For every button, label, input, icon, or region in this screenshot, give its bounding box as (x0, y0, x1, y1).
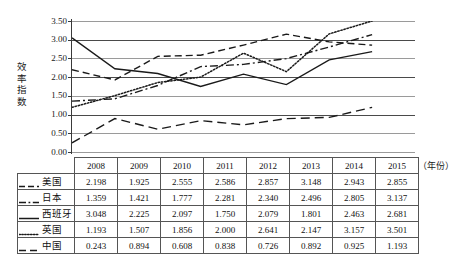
table-value-cell: 1.193 (75, 222, 118, 238)
y-axis-tick-label: 2.00 (34, 73, 67, 82)
table-value-cell: 2.281 (204, 190, 247, 206)
y-axis-title-char: 指 (14, 85, 30, 97)
table-value-cell: 3.157 (333, 222, 376, 238)
table-year-header: 2012 (247, 158, 290, 174)
table-value-cell: 2.000 (204, 222, 247, 238)
y-axis-title-char: 数 (14, 97, 30, 109)
table-value-cell: 1.801 (290, 206, 333, 222)
y-axis-tick-label: 0.00 (34, 148, 67, 157)
table-value-cell: 0.838 (204, 238, 247, 254)
table-row-legend-美国: 美国 (18, 174, 75, 190)
legend-line-swatch (19, 229, 39, 230)
table-value-cell: 2.641 (247, 222, 290, 238)
table-value-cell: 2.805 (333, 190, 376, 206)
table-value-cell: 1.925 (118, 174, 161, 190)
legend-series-name: 英国 (42, 225, 62, 235)
y-axis-title-char: 率 (14, 74, 30, 86)
legend-series-name: 日本 (42, 193, 62, 203)
legend-line-swatch (19, 245, 39, 246)
table-row: 英国1.1931.5071.8562.0002.6412.1473.1573.5… (18, 222, 419, 238)
table-year-header: 2008 (75, 158, 118, 174)
series-line-美国 (72, 34, 372, 80)
table-value-cell: 1.193 (376, 238, 419, 254)
y-axis-tick-label: 3.50 (34, 17, 67, 26)
table-value-cell: 0.243 (75, 238, 118, 254)
legend-line-swatch (19, 181, 39, 182)
table-value-cell: 3.137 (376, 190, 419, 206)
table-value-cell: 2.079 (247, 206, 290, 222)
series-line-英国 (72, 21, 372, 107)
table-body: 美国2.1981.9252.5552.5862.8573.1482.9432.8… (18, 174, 419, 254)
series-line-中国 (72, 107, 372, 143)
y-axis-tick-labels: 3.503.002.502.001.501.000.500.00 (34, 0, 67, 160)
series-line-日本 (72, 35, 372, 102)
legend-line-swatch (19, 197, 39, 198)
table-value-cell: 2.496 (290, 190, 333, 206)
table-corner-cell (18, 158, 75, 174)
efficiency-index-figure: 效率指数 3.503.002.502.001.501.000.500.00 （年… (0, 0, 458, 257)
table-row: 美国2.1981.9252.5552.5862.8573.1482.9432.8… (18, 174, 419, 190)
table-value-cell: 3.048 (75, 206, 118, 222)
table-value-cell: 2.855 (376, 174, 419, 190)
table-row-legend-中国: 中国 (18, 238, 75, 254)
table-value-cell: 1.856 (161, 222, 204, 238)
table-value-cell: 1.777 (161, 190, 204, 206)
gridline (72, 152, 415, 153)
table-value-cell: 1.750 (204, 206, 247, 222)
table-year-header: 2010 (161, 158, 204, 174)
y-axis-title-char: 效 (14, 62, 30, 74)
legend-series-name: 西班牙 (42, 209, 72, 219)
table-value-cell: 3.501 (376, 222, 419, 238)
legend-series-name: 中国 (42, 241, 62, 251)
table-value-cell: 2.586 (204, 174, 247, 190)
y-axis-tick-label: 3.00 (34, 35, 67, 44)
y-axis-tick-label: 2.50 (34, 54, 67, 63)
table-year-header: 2013 (290, 158, 333, 174)
table-value-cell: 2.198 (75, 174, 118, 190)
table-header-row: 20082009201020112012201320142015 (18, 158, 419, 174)
table-value-cell: 1.507 (118, 222, 161, 238)
table-row: 中国0.2430.8940.6080.8380.7260.8920.9251.1… (18, 238, 419, 254)
table-value-cell: 2.943 (333, 174, 376, 190)
table-value-cell: 2.147 (290, 222, 333, 238)
y-axis-title: 效率指数 (14, 62, 30, 108)
table-value-cell: 0.894 (118, 238, 161, 254)
data-table: 20082009201020112012201320142015 美国2.198… (17, 157, 419, 254)
table-value-cell: 3.148 (290, 174, 333, 190)
table-value-cell: 2.555 (161, 174, 204, 190)
table-value-cell: 2.857 (247, 174, 290, 190)
table-row: 日本1.3591.4211.7772.2812.3402.4962.8053.1… (18, 190, 419, 206)
plot-area (72, 21, 415, 152)
table-value-cell: 2.225 (118, 206, 161, 222)
table-year-header: 2015 (376, 158, 419, 174)
table-value-cell: 2.681 (376, 206, 419, 222)
legend-line-swatch (19, 213, 39, 214)
table-year-header: 2011 (204, 158, 247, 174)
x-axis-note: （年份） (418, 160, 454, 172)
table-value-cell: 0.892 (290, 238, 333, 254)
table-value-cell: 0.726 (247, 238, 290, 254)
table-row-legend-英国: 英国 (18, 222, 75, 238)
legend-series-name: 美国 (42, 177, 62, 187)
y-axis-tick-label: 0.50 (34, 129, 67, 138)
table-value-cell: 0.925 (333, 238, 376, 254)
series-canvas (72, 21, 415, 152)
table-row: 西班牙3.0482.2252.0971.7502.0791.8012.4632.… (18, 206, 419, 222)
table-value-cell: 0.608 (161, 238, 204, 254)
table-year-header: 2014 (333, 158, 376, 174)
y-axis-tick-label: 1.00 (34, 110, 67, 119)
table-row-legend-日本: 日本 (18, 190, 75, 206)
table-value-cell: 2.097 (161, 206, 204, 222)
y-axis-tick-label: 1.50 (34, 91, 67, 100)
table-value-cell: 1.421 (118, 190, 161, 206)
table-value-cell: 1.359 (75, 190, 118, 206)
table-row-legend-西班牙: 西班牙 (18, 206, 75, 222)
table-year-header: 2009 (118, 158, 161, 174)
table-value-cell: 2.340 (247, 190, 290, 206)
table-value-cell: 2.463 (333, 206, 376, 222)
